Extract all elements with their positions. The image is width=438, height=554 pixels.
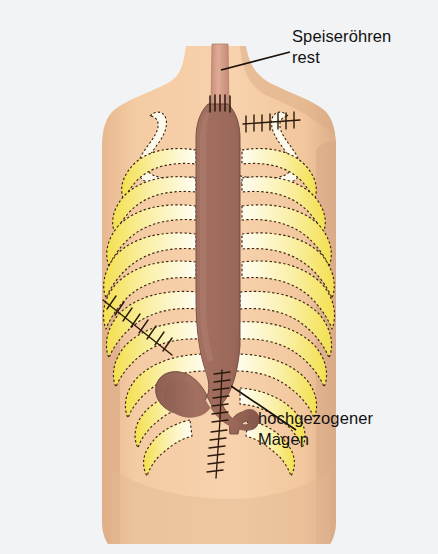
anatomy-artwork: [0, 0, 438, 554]
medical-illustration-figure: Speiseröhrenrest hochgezogenerMagen: [0, 0, 438, 554]
